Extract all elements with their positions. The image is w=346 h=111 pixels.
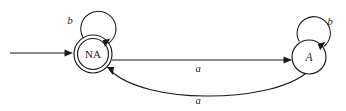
a-self-loop-path <box>297 17 330 47</box>
edge-label-a-self-b: b <box>327 16 332 27</box>
na-to-a-arrow-head <box>284 57 293 64</box>
a-to-na-path <box>111 71 306 97</box>
state-na[interactable]: NA <box>74 35 112 73</box>
edge-label-na-self-b: b <box>67 15 72 26</box>
edge-label-na-to-a: a <box>195 63 200 74</box>
state-na-label: NA <box>85 48 101 60</box>
transition-a-to-na <box>107 67 305 96</box>
edge-label-a-to-na: a <box>195 95 200 106</box>
automaton-figure: NA A b a a b <box>0 0 346 111</box>
na-self-loop-path <box>81 11 116 43</box>
start-arrow-head <box>65 50 74 57</box>
automaton-canvas: NA A b a a b <box>0 0 346 111</box>
state-a-label: A <box>304 51 313 63</box>
start-arrow <box>10 50 73 57</box>
a-to-na-arrow-head <box>107 67 114 75</box>
transition-a-self-b <box>297 17 330 51</box>
state-a[interactable]: A <box>292 40 326 74</box>
transition-na-self-b <box>81 11 116 47</box>
transition-na-to-a <box>112 57 292 64</box>
